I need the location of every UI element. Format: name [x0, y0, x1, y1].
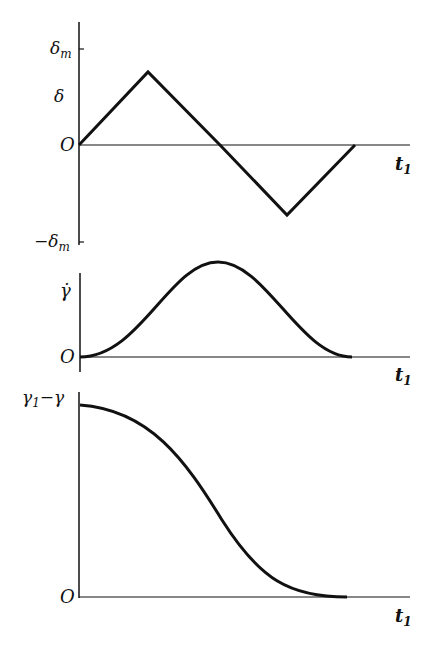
label-origin-top: O: [60, 134, 75, 155]
label-origin-bottom: O: [60, 586, 75, 607]
middle-plot: [80, 262, 410, 372]
middle-labels: γ̇ O t1: [60, 280, 412, 388]
label-gamma-dot: γ̇: [60, 280, 71, 301]
label-neg-delta-m: −δm: [34, 231, 70, 254]
label-t1-top: t1: [395, 153, 412, 177]
label-t1-bottom: t1: [395, 605, 412, 629]
label-origin-middle: O: [60, 346, 75, 367]
label-t1-middle: t1: [395, 364, 412, 388]
label-gamma1-minus-gamma: γ1−γ: [22, 387, 65, 410]
delta-curve: [79, 72, 355, 215]
bottom-labels: γ1−γ O t1: [22, 387, 412, 629]
label-delta-m: δm: [50, 38, 72, 61]
gamma-dot-curve: [80, 262, 352, 357]
top-plot: [79, 22, 410, 245]
figure: δm δ O −δm t1 γ̇ O t1 γ1−γ O t1: [0, 0, 437, 649]
label-delta: δ: [54, 86, 64, 106]
gamma-diff-curve: [80, 405, 347, 597]
bottom-plot: [79, 392, 410, 598]
